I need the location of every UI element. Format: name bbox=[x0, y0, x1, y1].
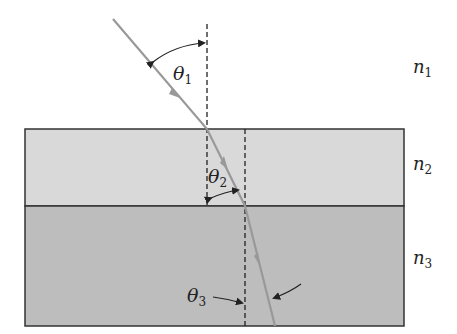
medium-3-label: n3 bbox=[413, 247, 432, 271]
refraction-diagram: θ1 θ2 θ3 n1 n2 n3 bbox=[0, 0, 457, 334]
medium-2-label: n2 bbox=[413, 153, 432, 177]
medium-3-layer bbox=[25, 206, 404, 326]
theta-1-label: θ1 bbox=[173, 62, 192, 87]
theta-1-arc bbox=[153, 43, 204, 62]
medium-1-label: n1 bbox=[413, 56, 432, 80]
